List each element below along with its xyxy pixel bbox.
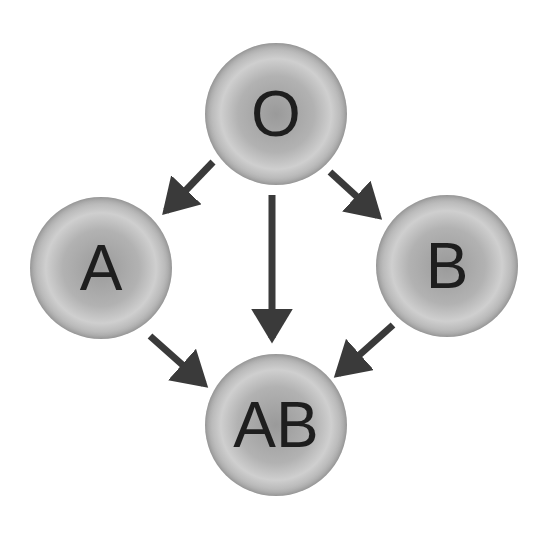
edge-o-to-a [166, 162, 213, 211]
edge-a-to-ab [150, 336, 204, 384]
edge-b-to-ab [338, 325, 393, 374]
node-a: A [30, 197, 172, 339]
node-ab: AB [205, 354, 347, 496]
node-o: O [205, 43, 347, 185]
node-b: B [376, 195, 518, 337]
edge-o-to-b [330, 172, 378, 216]
node-ab-label: AB [233, 393, 318, 457]
node-o-label: O [251, 82, 301, 146]
node-b-label: B [426, 234, 469, 298]
node-a-label: A [80, 236, 123, 300]
